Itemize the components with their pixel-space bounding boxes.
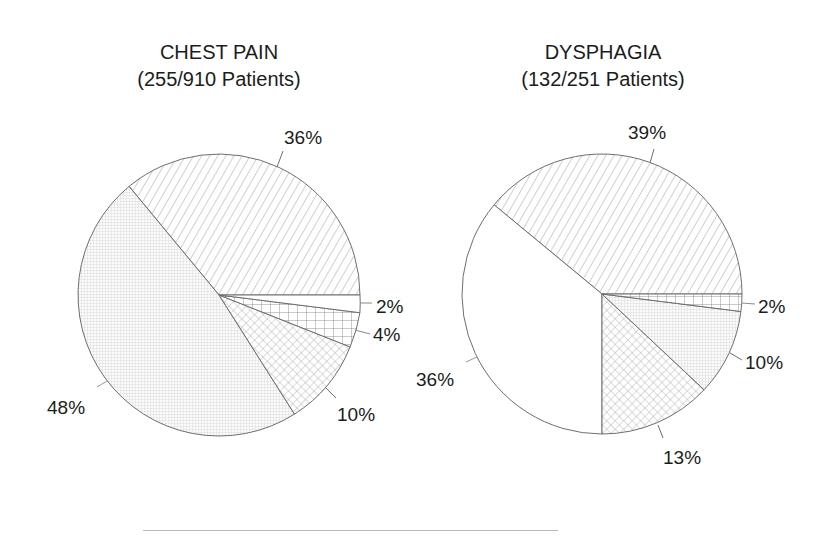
leader-line (355, 330, 370, 334)
pie-charts (0, 0, 833, 539)
chest-pain-label-4: 4% (373, 325, 400, 345)
dysphagia-label-10: 10% (745, 353, 783, 373)
dysphagia-label-39: 39% (628, 123, 666, 143)
leader-line (97, 381, 107, 387)
chest-pain-label-10: 10% (337, 405, 375, 425)
leader-line (650, 149, 654, 163)
leader-line (325, 387, 336, 398)
leader-line (658, 425, 663, 438)
chest-pain-pie (78, 151, 372, 436)
chest-pain-label-2: 2% (376, 297, 403, 317)
dysphagia-label-13: 13% (663, 448, 701, 468)
leader-line (742, 303, 755, 304)
chest-pain-label-48: 48% (47, 398, 85, 418)
leader-line (730, 353, 742, 360)
dysphagia-label-2: 2% (758, 297, 785, 317)
bottom-divider (143, 530, 558, 531)
dysphagia-label-36: 36% (416, 370, 454, 390)
dysphagia-pie (462, 149, 755, 438)
leader-line (277, 151, 283, 167)
leader-line (466, 357, 477, 362)
chest-pain-label-36: 36% (284, 128, 322, 148)
